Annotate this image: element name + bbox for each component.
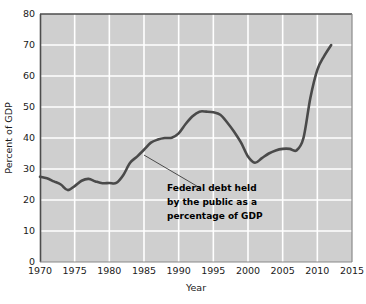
annotation-line-2: by the public as a — [167, 197, 257, 207]
annotation-line-3: percentage of GDP — [167, 211, 263, 221]
x-axis-tick-labels: 1970197519801985199019952000200520102015 — [28, 265, 364, 276]
line-chart: 01020304050607080 1970197519801985199019… — [0, 0, 366, 304]
y-tick-10: 10 — [23, 225, 35, 236]
y-tick-50: 50 — [23, 101, 35, 112]
x-tick-1970: 1970 — [28, 265, 52, 276]
annotation-label: Federal debt held by the public as a per… — [167, 183, 263, 221]
y-tick-80: 80 — [23, 8, 35, 19]
y-tick-20: 20 — [23, 194, 35, 205]
y-axis-title: Percent of GDP — [3, 102, 14, 174]
x-tick-1990: 1990 — [167, 265, 191, 276]
x-tick-2010: 2010 — [305, 265, 329, 276]
y-tick-40: 40 — [23, 132, 35, 143]
x-tick-1995: 1995 — [201, 265, 225, 276]
x-tick-1975: 1975 — [63, 265, 87, 276]
x-tick-2005: 2005 — [271, 265, 295, 276]
x-tick-2015: 2015 — [340, 265, 364, 276]
x-tick-2000: 2000 — [236, 265, 260, 276]
y-axis-tick-labels: 01020304050607080 — [23, 8, 35, 267]
chart-figure: 01020304050607080 1970197519801985199019… — [0, 0, 366, 304]
y-tick-30: 30 — [23, 163, 35, 174]
x-tick-1985: 1985 — [132, 265, 156, 276]
y-tick-70: 70 — [23, 39, 35, 50]
annotation-line-1: Federal debt held — [167, 183, 257, 193]
x-tick-1980: 1980 — [97, 265, 121, 276]
x-axis-title: Year — [185, 282, 206, 293]
y-tick-60: 60 — [23, 70, 35, 81]
